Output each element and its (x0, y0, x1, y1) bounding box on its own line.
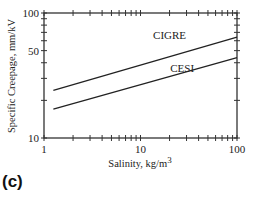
x-axis-label: Salinity, kg/m3 (108, 155, 172, 169)
x-tick-label: 10 (135, 143, 147, 155)
x-tick-label: 1 (41, 143, 47, 155)
series-label-cesi: CESI (170, 62, 194, 74)
series-lines (53, 37, 237, 109)
y-tick-label: 50 (28, 45, 40, 57)
tick-labels: 1101001050100 (23, 7, 246, 155)
series-label-cigre: CIGRE (153, 29, 186, 41)
y-tick-label: 100 (23, 7, 40, 19)
chart: 1101001050100 CIGRECESI Salinity, kg/m3 … (0, 0, 261, 199)
y-tick-label: 10 (28, 132, 40, 144)
series-line-cesi (53, 58, 237, 110)
axis-ticks (41, 10, 240, 141)
plot-frame (44, 13, 237, 138)
panel-label: (c) (2, 172, 23, 192)
series-line-cigre (53, 37, 237, 90)
y-axis-label: Specific Creepage, mm/kV (6, 19, 17, 133)
x-tick-label: 100 (229, 143, 246, 155)
